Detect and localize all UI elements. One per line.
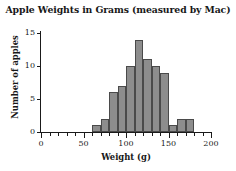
y-axis-tick-label: 5 (19, 95, 35, 103)
y-axis-tick-label: 0 (19, 128, 35, 136)
histogram-bar (135, 40, 144, 132)
x-axis-minor-tick (92, 133, 93, 136)
x-axis-minor-tick (67, 133, 68, 136)
x-axis-major-tick (41, 133, 42, 138)
y-axis-tick (37, 66, 41, 67)
y-axis-tick-label: 15 (19, 29, 35, 37)
x-axis-title: Weight (g) (41, 152, 211, 162)
x-axis-minor-tick (186, 133, 187, 136)
histogram-bar (160, 73, 169, 132)
histogram-bar (101, 119, 110, 132)
x-axis-minor-tick (75, 133, 76, 136)
x-axis-minor-tick (143, 133, 144, 136)
histogram-bar (186, 119, 195, 132)
x-axis-minor-tick (177, 133, 178, 136)
x-axis-minor-tick (135, 133, 136, 136)
histogram-bar (109, 92, 118, 132)
x-axis-tick-label: 150 (154, 140, 184, 148)
x-axis-minor-tick (118, 133, 119, 136)
histogram-bar (92, 125, 101, 132)
x-axis-major-tick (126, 133, 127, 138)
x-axis-minor-tick (58, 133, 59, 136)
histogram-bar (143, 59, 152, 132)
y-axis-tick-label: 10 (19, 62, 35, 70)
histogram-bar (152, 66, 161, 132)
x-axis-minor-tick (50, 133, 51, 136)
y-axis-title: Number of apples (10, 29, 20, 125)
x-axis-tick-label: 50 (69, 140, 99, 148)
chart-title: Apple Weights in Grams (measured by Mac) (0, 4, 236, 15)
histogram-bar (118, 86, 127, 132)
x-axis-tick-label: 100 (111, 140, 141, 148)
histogram-bar (177, 119, 186, 132)
y-axis-tick (37, 99, 41, 100)
x-axis-tick-label: 0 (26, 140, 56, 148)
x-axis-minor-tick (203, 133, 204, 136)
y-axis-tick (37, 33, 41, 34)
x-axis-major-tick (169, 133, 170, 138)
x-axis-major-tick (211, 133, 212, 138)
x-axis-tick-label: 200 (196, 140, 226, 148)
x-axis-minor-tick (152, 133, 153, 136)
x-axis-minor-tick (194, 133, 195, 136)
histogram-bar (169, 125, 178, 132)
x-axis-minor-tick (160, 133, 161, 136)
x-axis-minor-tick (109, 133, 110, 136)
plot-area (41, 33, 211, 132)
x-axis-minor-tick (101, 133, 102, 136)
x-axis-major-tick (84, 133, 85, 138)
histogram-bar (126, 66, 135, 132)
histogram-figure: Apple Weights in Grams (measured by Mac)… (0, 0, 236, 171)
